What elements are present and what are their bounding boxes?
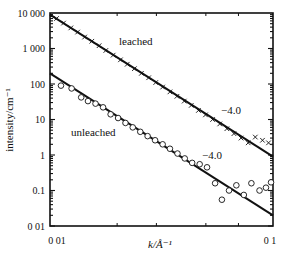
unleached-point [234,183,240,189]
slope-label-unleached: −4.0 [202,149,222,161]
y-tick-0.1: 0.1 [33,185,46,196]
unleached-point [167,146,173,152]
y-tick-0.01: 0 01 [28,221,46,232]
unleached-point [249,180,255,186]
unleached-point [130,125,136,131]
log-log-chart: 10 000 1 000 100 10 1 0.1 0 01 0 01 0 1 … [0,0,282,261]
unleached-point [182,156,188,162]
y-tick-1000: 1 000 [23,43,46,54]
y-axis-title: intensity/cm⁻¹ [3,88,15,152]
unleached-point [93,101,99,107]
leached-point [253,135,258,140]
leached-label: leached [119,35,153,47]
unleached-point [69,86,75,92]
unleached-point [219,197,225,203]
unleached-point [115,115,121,121]
unleached-point [268,180,274,186]
unleached-point [145,133,151,139]
leached-point [266,141,271,146]
leached-point [260,138,265,143]
y-tick-1: 1 [40,150,45,161]
x-tick-0.1: 0 1 [264,235,277,246]
unleached-point [160,142,166,148]
unleached-label: unleached [71,126,116,138]
x-tick-0.01: 0 01 [48,235,66,246]
unleached-point [226,188,232,194]
unleached-point [175,151,181,157]
unleached-point [108,112,114,118]
unleached-point [152,137,158,143]
unleached-point [204,165,210,171]
unleached-point [241,192,247,198]
unleached-point [123,120,129,126]
unleached-point [257,188,263,194]
unleached-point [85,98,91,104]
unleached-point [212,180,218,186]
unleached-point [78,95,84,101]
x-axis-title: k/Å⁻¹ [148,238,172,250]
slope-label-leached: −4.0 [221,104,241,116]
unleached-point [58,83,64,89]
y-tick-10: 10 [35,114,45,125]
y-tick-100: 100 [30,79,45,90]
unleached-point [189,160,195,166]
unleached-point [137,129,143,135]
unleached-point [263,185,269,191]
unleached-point [197,161,203,167]
unleached-point [100,105,106,111]
y-tick-10000: 10 000 [18,8,46,19]
